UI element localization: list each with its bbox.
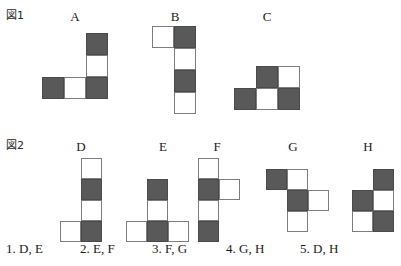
shape-a: A xyxy=(30,10,120,110)
shape-h: H xyxy=(340,140,400,230)
answer-option-2[interactable]: 2. E, F xyxy=(80,241,115,257)
shape-c-cell-r0c2 xyxy=(278,66,300,88)
shape-h-label: H xyxy=(340,140,396,154)
shape-g-cell-r1c2 xyxy=(308,190,329,211)
shape-b: B xyxy=(145,10,205,120)
shape-g-cell-r0c1 xyxy=(287,169,308,190)
shape-f-label: F xyxy=(182,140,252,154)
shape-g: G xyxy=(258,140,348,230)
answer-options-row: 1. D, E 2. E, F 3. F, G 4. G, H 5. D, H xyxy=(0,238,401,260)
shape-b-cell-r0c0 xyxy=(152,26,174,48)
shape-a-cell-r2c1 xyxy=(64,77,86,99)
shape-c: C xyxy=(222,10,312,120)
answer-option-5[interactable]: 5. D, H xyxy=(300,241,338,257)
shape-a-cell-r2c0 xyxy=(42,77,64,99)
answer-option-4[interactable]: 4. G, H xyxy=(226,241,264,257)
shape-c-label: C xyxy=(222,10,312,24)
shape-d-cell-r0c1 xyxy=(81,158,102,179)
shape-c-cell-r0c1 xyxy=(256,66,278,88)
shape-b-grid xyxy=(152,26,196,114)
shape-f-grid xyxy=(198,158,240,242)
shape-d-cell-r1c1 xyxy=(81,179,102,200)
shape-f-cell-r2c0 xyxy=(198,200,219,221)
answer-option-1[interactable]: 1. D, E xyxy=(6,241,43,257)
shape-d-label: D xyxy=(46,140,116,154)
shape-d-cell-r2c1 xyxy=(81,200,102,221)
shape-d-grid xyxy=(60,158,102,242)
shape-b-label: B xyxy=(145,10,205,24)
shape-h-cell-r0c1 xyxy=(373,169,394,190)
shape-f-cell-r0c0 xyxy=(198,158,219,179)
shape-g-cell-r2c1 xyxy=(287,211,308,232)
figure-1-label: 図1 xyxy=(6,6,24,22)
shape-c-cell-r1c2 xyxy=(278,88,300,110)
shape-b-cell-r1c1 xyxy=(174,48,196,70)
shape-h-cell-r2c1 xyxy=(373,211,394,232)
shape-d: D xyxy=(46,140,116,230)
shape-a-label: A xyxy=(30,10,120,24)
shape-c-cell-r1c1 xyxy=(256,88,278,110)
shape-b-cell-r0c1 xyxy=(174,26,196,48)
shape-e-grid xyxy=(126,179,189,242)
shape-a-cell-r0c2 xyxy=(86,33,108,55)
shape-a-cell-r1c2 xyxy=(86,55,108,77)
shape-a-cell-r2c2 xyxy=(86,77,108,99)
shape-e-cell-r0c1 xyxy=(147,179,168,200)
shape-f-cell-r1c0 xyxy=(198,179,219,200)
shape-c-grid xyxy=(234,66,300,110)
shape-h-cell-r1c0 xyxy=(352,190,373,211)
shape-h-grid xyxy=(352,169,394,232)
shape-b-cell-r3c1 xyxy=(174,92,196,114)
shape-h-cell-r2c0 xyxy=(352,211,373,232)
shape-c-cell-r1c0 xyxy=(234,88,256,110)
shape-g-grid xyxy=(266,169,329,232)
shape-g-cell-r1c1 xyxy=(287,190,308,211)
shape-f-cell-r1c1 xyxy=(219,179,240,200)
shape-g-label: G xyxy=(248,140,338,154)
shape-a-grid xyxy=(42,33,108,99)
shape-e-cell-r1c1 xyxy=(147,200,168,221)
figure-2-label: 図2 xyxy=(6,136,24,152)
answer-option-3[interactable]: 3. F, G xyxy=(152,241,187,257)
shape-g-cell-r0c0 xyxy=(266,169,287,190)
shape-h-cell-r1c1 xyxy=(373,190,394,211)
shape-b-cell-r2c1 xyxy=(174,70,196,92)
